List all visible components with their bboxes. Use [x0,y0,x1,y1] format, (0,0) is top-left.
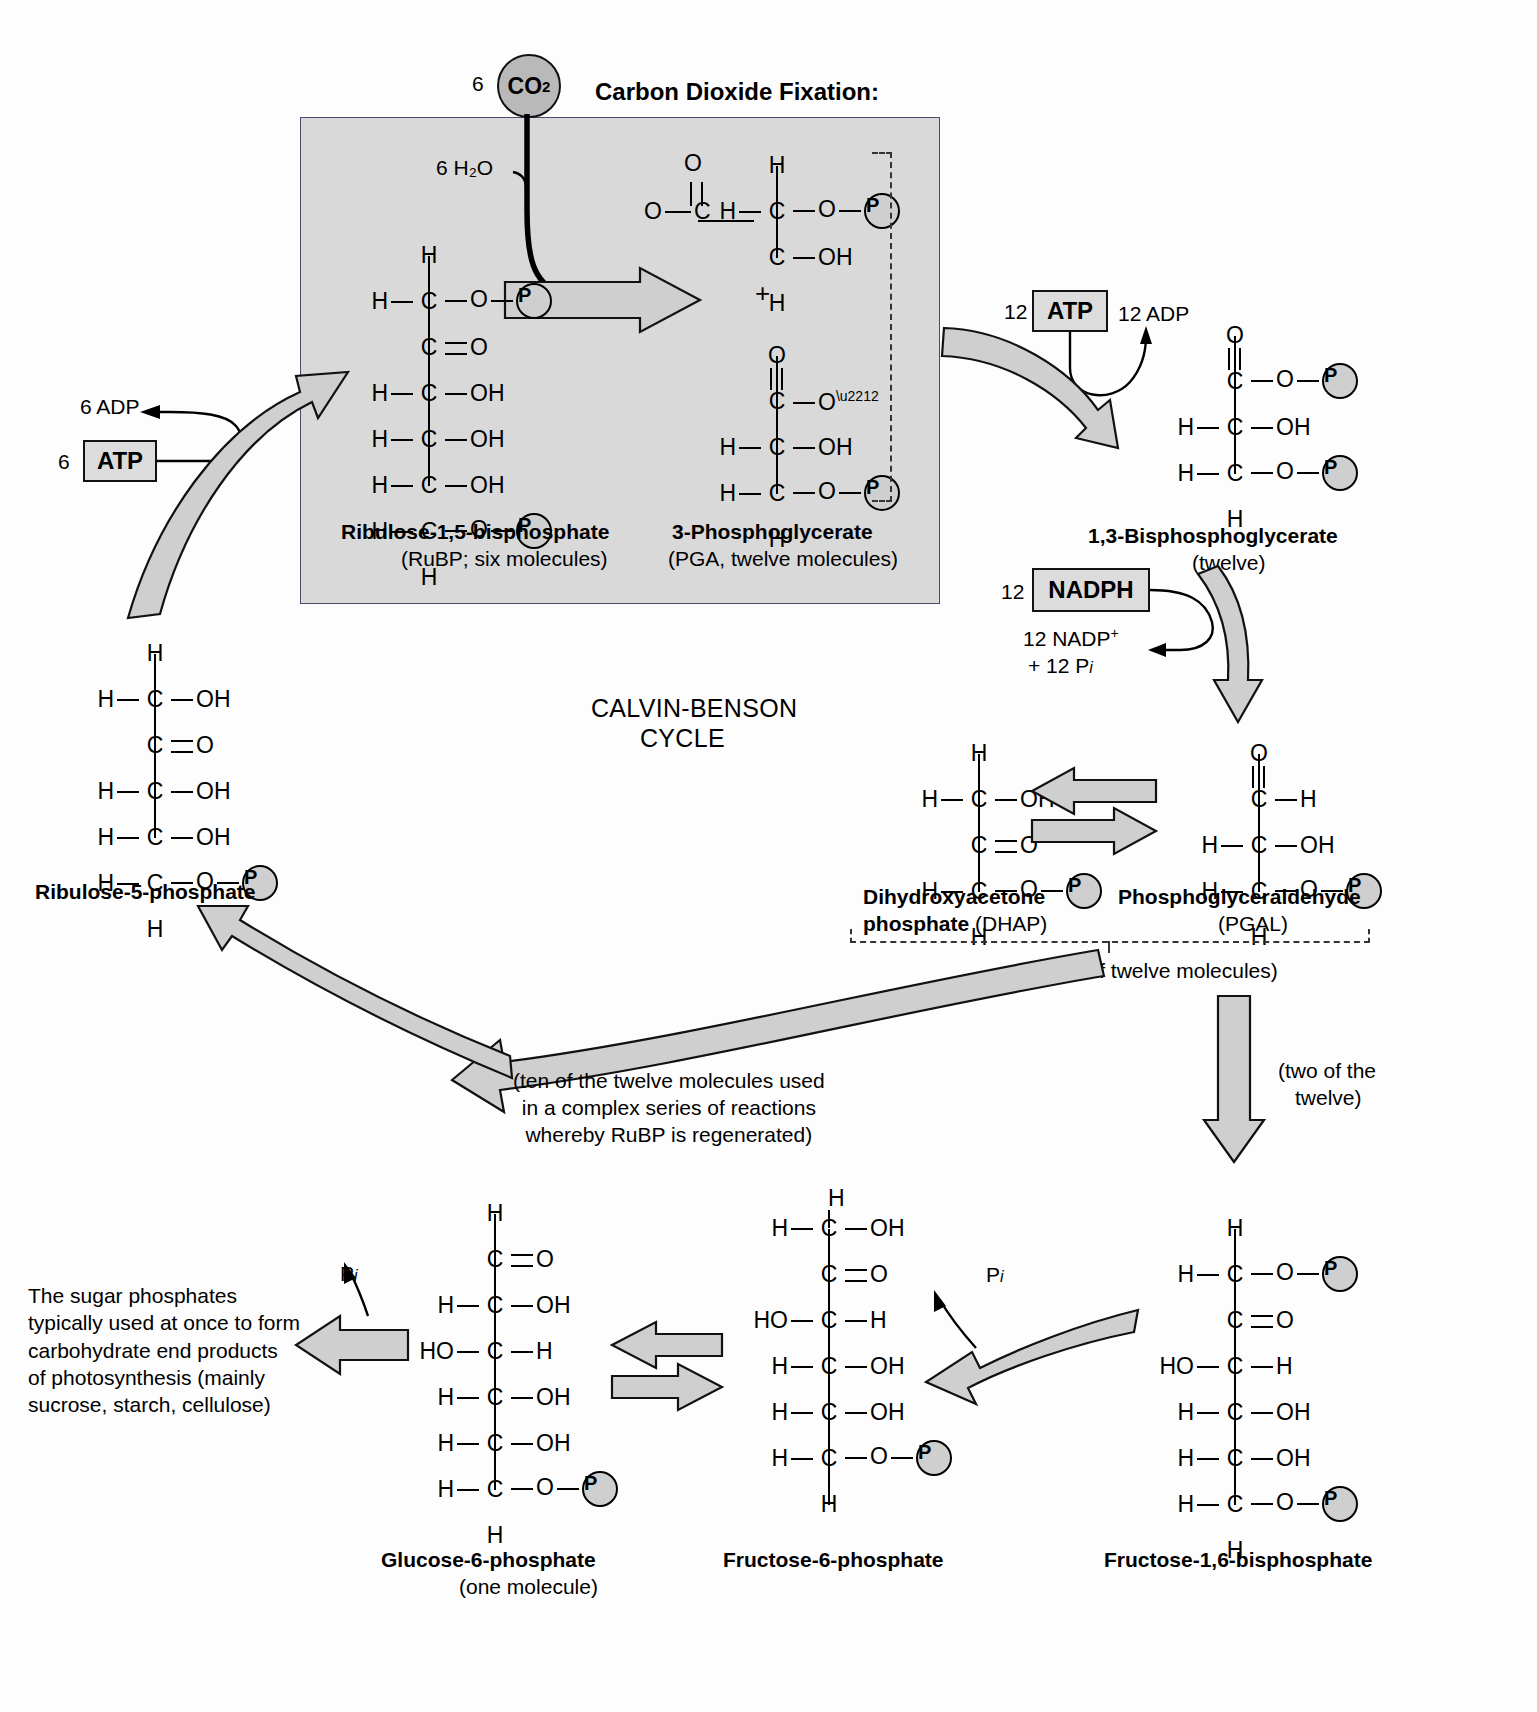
sugar-products-note: The sugar phosphates typically used at o… [28,1282,300,1418]
pi-label-left: Pi [340,1262,358,1287]
calvin-benson-cycle-figure: Carbon Dioxide Fixation: 6 CO2 6 H₂O H H… [0,0,1537,1712]
g6p-to-products-arrow [0,0,1537,1712]
